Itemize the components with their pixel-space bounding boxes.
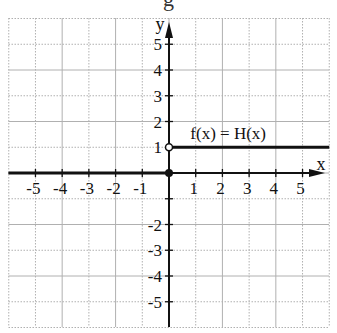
open-point-icon [166, 144, 173, 151]
y-tick-label: -3 [148, 241, 162, 260]
y-tick-label: -2 [148, 216, 162, 235]
x-tick-label: -2 [106, 179, 120, 198]
x-tick-label: 3 [243, 179, 252, 198]
x-tick-label: 4 [270, 179, 279, 198]
heaviside-graph: -5-4-3-2-112345-5-4-3-212345xyf(x) = H(x… [0, 0, 337, 333]
tick-labels: -5-4-3-2-112345-5-4-3-212345xyf(x) = H(x… [26, 14, 325, 312]
y-tick-label: 3 [154, 87, 163, 106]
y-axis-label: y [156, 14, 165, 34]
y-tick-label: 4 [154, 61, 163, 80]
y-axis-arrow-icon [165, 22, 173, 38]
x-tick-label: 5 [296, 179, 305, 198]
y-tick-label: -5 [148, 293, 162, 312]
y-tick-label: -4 [148, 267, 163, 286]
x-tick-label: 2 [216, 179, 225, 198]
y-tick-label: 5 [154, 35, 163, 54]
x-tick-label: -4 [53, 179, 68, 198]
y-tick-label: 1 [154, 138, 163, 157]
closed-point-icon [165, 169, 173, 177]
x-tick-label: -1 [133, 179, 147, 198]
x-axis-label: x [317, 154, 326, 174]
x-tick-label: -5 [26, 179, 40, 198]
x-tick-label: 1 [189, 179, 198, 198]
y-tick-label: 2 [154, 113, 163, 132]
function-label: f(x) = H(x) [190, 124, 266, 143]
x-tick-label: -3 [80, 179, 94, 198]
